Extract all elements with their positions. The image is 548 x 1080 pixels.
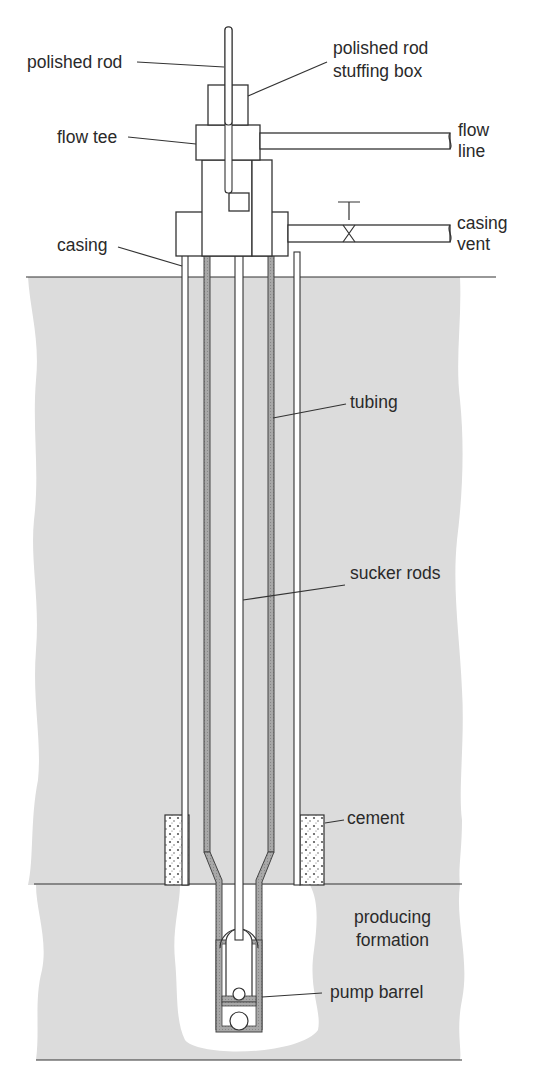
label-flow-line-2: line <box>458 141 485 161</box>
oil-well-diagram: polished rod polished rod stuffing box f… <box>0 0 548 1080</box>
label-casing: casing <box>57 235 108 255</box>
label-tubing: tubing <box>350 392 398 412</box>
casing-left-wall <box>182 252 188 885</box>
label-polished-rod: polished rod <box>27 52 122 72</box>
label-flow-tee: flow tee <box>57 127 117 147</box>
label-sucker-rods: sucker rods <box>350 563 441 583</box>
casing-vent-pipe <box>288 225 450 242</box>
label-stuffing-box-line2: stuffing box <box>333 61 422 81</box>
casing-right-wall <box>294 252 300 885</box>
sucker-rod <box>235 200 243 940</box>
traveling-valve-ball <box>233 988 245 1000</box>
label-casing-vent-2: vent <box>457 234 490 254</box>
label-producing-formation-2: formation <box>356 930 429 950</box>
label-stuffing-box-line1: polished rod <box>333 38 428 58</box>
label-flow-line-1: flow <box>458 120 489 140</box>
rod-coupling <box>229 193 249 211</box>
standing-valve-ball <box>230 1012 248 1030</box>
flow-line-pipe <box>260 133 450 149</box>
label-cement: cement <box>347 808 405 828</box>
label-producing-formation-1: producing <box>354 907 431 927</box>
tubing-left-wall <box>204 252 210 852</box>
label-casing-vent-1: casing <box>457 213 508 233</box>
tubing-right-wall <box>268 252 274 852</box>
cement-block-right <box>300 815 324 885</box>
label-pump-barrel: pump barrel <box>330 982 423 1002</box>
